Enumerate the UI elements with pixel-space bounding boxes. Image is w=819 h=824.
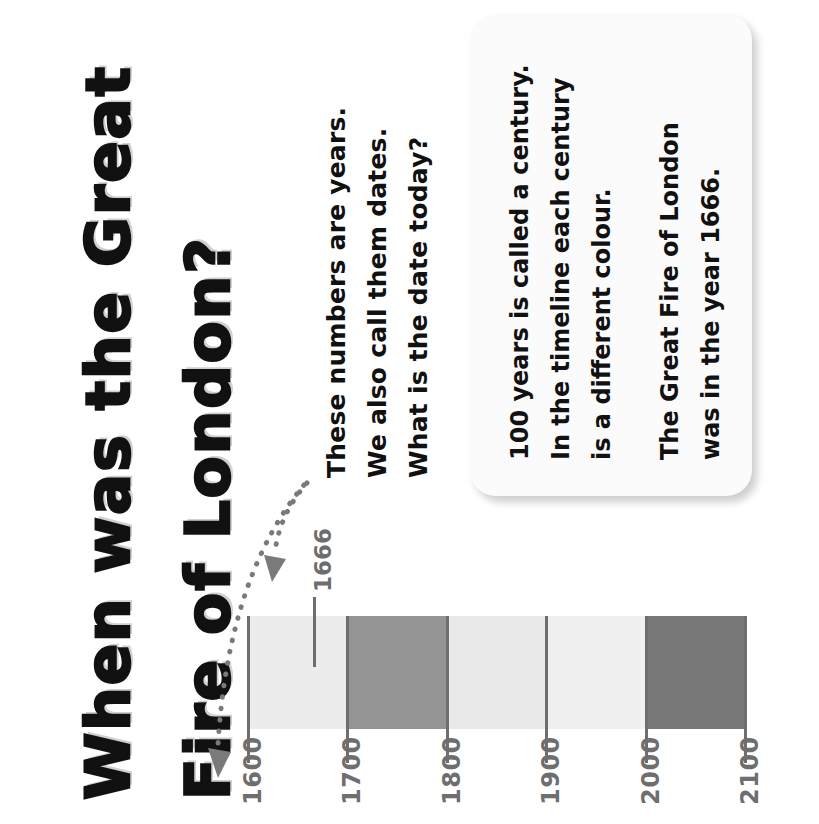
timeline-segment — [646, 616, 745, 729]
event-marker-line — [313, 597, 316, 667]
timeline-segment — [347, 616, 446, 729]
timeline-segment — [447, 616, 546, 729]
timeline-tick-label: 2000 — [637, 736, 665, 805]
timeline-segment — [546, 616, 645, 729]
timeline-segment — [248, 616, 347, 729]
timeline-tick-label: 1900 — [537, 736, 565, 805]
timeline-tick-label: 1800 — [438, 736, 466, 805]
timeline-tick-label: 1600 — [239, 736, 267, 805]
event-marker-label: 1666 — [310, 528, 336, 592]
century-timeline: 160017001800190020002100 1666 — [0, 0, 819, 824]
timeline-tick-label: 1700 — [338, 736, 366, 805]
timeline-tick-label: 2100 — [736, 736, 764, 805]
